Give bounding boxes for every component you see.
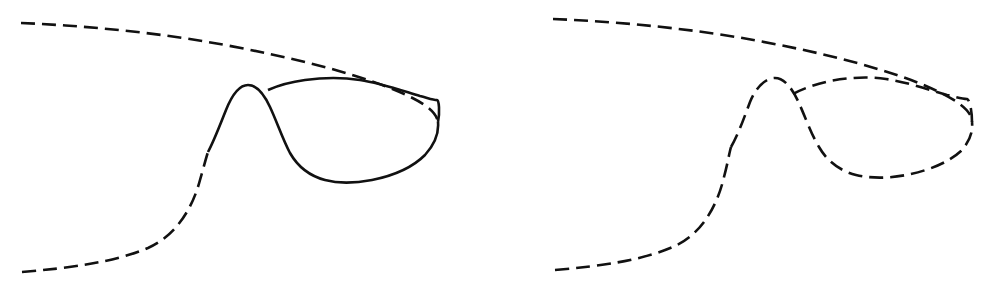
figure-pair-container (0, 0, 988, 292)
lower-dashed-branch-right (555, 147, 731, 270)
solid-middle-branch-left (268, 78, 439, 122)
figure-panel-right (494, 0, 988, 292)
figure-panel-left (0, 0, 494, 292)
solid-hump-and-loop-left (208, 85, 438, 183)
upper-dashed-branch-left (21, 23, 438, 122)
curve-svg-right (494, 0, 988, 292)
upper-dashed-branch-right (553, 19, 972, 122)
middle-dashed-branch-right (793, 78, 972, 122)
curve-svg-left (0, 0, 494, 292)
lower-dashed-branch-left (22, 152, 208, 272)
